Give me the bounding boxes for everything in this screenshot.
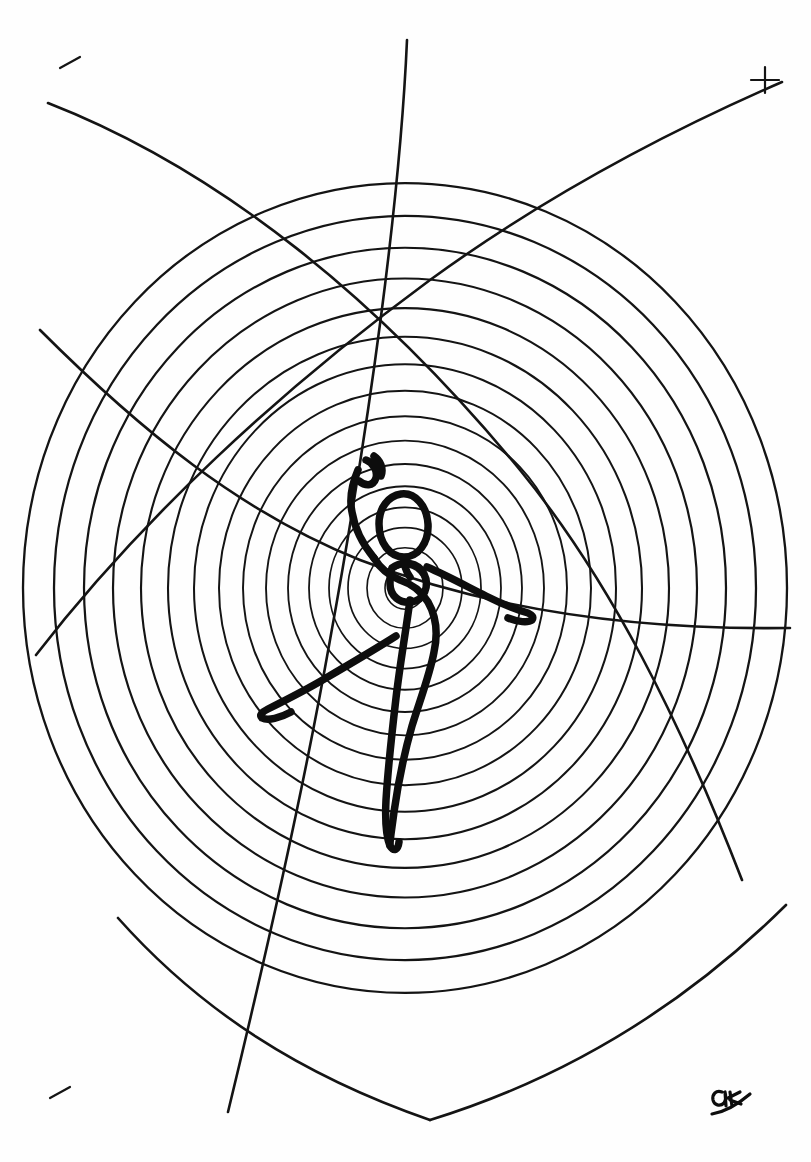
artwork-page: · · · monogram	[0, 0, 811, 1162]
ink-drawing-canvas	[0, 0, 811, 1162]
signature-text: monogram	[705, 1098, 765, 1132]
